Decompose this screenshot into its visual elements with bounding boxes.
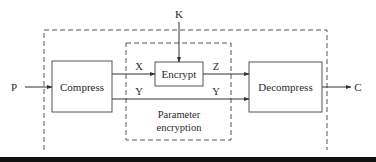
parameter-encryption-label-line2: encryption xyxy=(157,122,203,133)
signal-z-label: Z xyxy=(213,61,219,72)
parameter-encryption-label-line1: Parameter xyxy=(158,109,201,120)
signal-x-label: X xyxy=(135,61,143,72)
encrypt-block: Encrypt xyxy=(155,62,203,86)
signal-y-right-label: Y xyxy=(212,86,220,97)
compress-block: Compress xyxy=(52,61,112,112)
decompress-block: Decompress xyxy=(249,62,322,112)
compress-label: Compress xyxy=(60,81,104,93)
signal-y-left-label: Y xyxy=(135,86,143,97)
compression-encryption-diagram: Compress Encrypt Decompress P K C X Y Z … xyxy=(0,0,376,162)
bottom-border-bar xyxy=(0,157,376,162)
output-c-label: C xyxy=(354,81,361,93)
input-k-label: K xyxy=(175,8,183,20)
encrypt-label: Encrypt xyxy=(162,68,197,80)
input-p-label: P xyxy=(11,81,17,93)
decompress-label: Decompress xyxy=(258,81,312,93)
